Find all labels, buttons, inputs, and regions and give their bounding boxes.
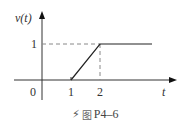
function-curve (71, 44, 152, 80)
y-axis-label: v(t) (15, 12, 32, 24)
x-tick-2-label: 2 (97, 86, 103, 98)
y-tick-1-label: 1 (31, 38, 37, 50)
x-axis-arrow-icon (169, 77, 177, 83)
origin-label: 0 (30, 86, 36, 98)
lightning-icon: ⚡ (72, 108, 80, 121)
x-axis-label: t (162, 86, 165, 98)
caption-prefix: 图 (82, 107, 92, 122)
x-tick-1-label: 1 (68, 86, 74, 98)
caption-id: P4–6 (94, 107, 119, 122)
y-axis-arrow-icon (39, 11, 45, 19)
figure-caption: ⚡ 图 P4–6 (72, 107, 118, 122)
